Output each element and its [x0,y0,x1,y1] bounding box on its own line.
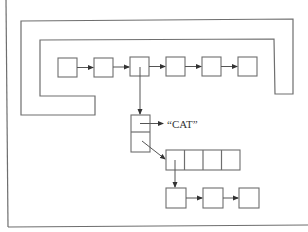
page-frame [6,0,308,227]
list-node-3 [239,188,259,208]
record-node [131,115,150,152]
string-label: “CAT” [167,118,198,130]
array [166,150,240,170]
bottom-linked-list [166,188,259,208]
list-node-4 [166,57,185,76]
list-node-1 [58,58,77,77]
list-node-2 [94,58,113,77]
list-node-6 [238,57,257,76]
top-linked-list [58,57,257,77]
list-node-1 [166,188,186,208]
diagram-canvas: “CAT” [0,0,308,232]
list-node-2 [203,188,223,208]
list-node-5 [202,57,221,76]
